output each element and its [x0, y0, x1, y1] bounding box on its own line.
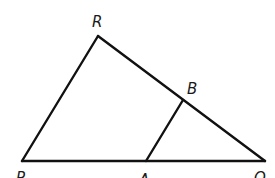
segment-ab — [146, 100, 183, 161]
point-label-a: A — [138, 171, 149, 178]
vertex-label-p: P — [16, 169, 26, 178]
vertex-label-r: R — [92, 13, 102, 31]
vertex-label-q: Q — [254, 169, 266, 178]
point-label-b: B — [187, 80, 197, 98]
triangle-diagram: R B P A Q — [0, 0, 275, 178]
segment-pr — [22, 36, 98, 161]
segment-rq — [98, 36, 265, 161]
